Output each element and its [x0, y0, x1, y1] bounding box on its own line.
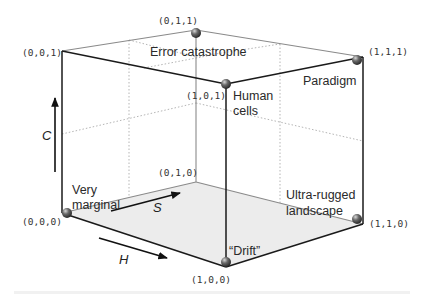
bottom-divider	[14, 291, 410, 294]
coord-label-011: (0,1,1)	[158, 15, 198, 26]
label-paradigm: Paradigm	[303, 74, 357, 88]
vertex-sphere-011	[191, 28, 201, 38]
c-axis-label: C	[42, 128, 52, 143]
label-cells: cells	[233, 104, 258, 118]
label-drift: “Drift”	[229, 244, 260, 258]
grid-dotted-lines	[62, 40, 363, 203]
label-human: Human	[233, 89, 273, 103]
cube-diagram: C S H (0,0,0) (1,0,0) (0,1,0) (1,1,0) (0…	[0, 0, 424, 298]
vertex-sphere-110	[352, 214, 362, 224]
vertex-sphere-101	[221, 79, 231, 89]
vertex-sphere-000	[62, 208, 72, 218]
coord-label-001: (0,0,1)	[22, 47, 62, 58]
s-axis-label: S	[153, 200, 162, 215]
coord-label-101: (1,0,1)	[186, 90, 226, 101]
vertex-sphere-111	[352, 55, 362, 65]
label-marginal: marginal	[72, 198, 120, 212]
h-axis-label: H	[119, 252, 129, 267]
coord-label-100: (1,0,0)	[191, 274, 231, 285]
coord-label-110: (1,1,0)	[369, 218, 409, 229]
label-very: Very	[72, 183, 98, 197]
coord-label-000: (0,0,0)	[22, 216, 62, 227]
label-error-catastrophe: Error catastrophe	[150, 45, 247, 59]
label-ultra-rugged: Ultra-rugged	[286, 188, 356, 202]
label-landscape: landscape	[286, 204, 343, 218]
coord-label-010: (0,1,0)	[158, 167, 198, 178]
vertex-sphere-100	[221, 257, 231, 267]
coord-label-111: (1,1,1)	[368, 46, 408, 57]
